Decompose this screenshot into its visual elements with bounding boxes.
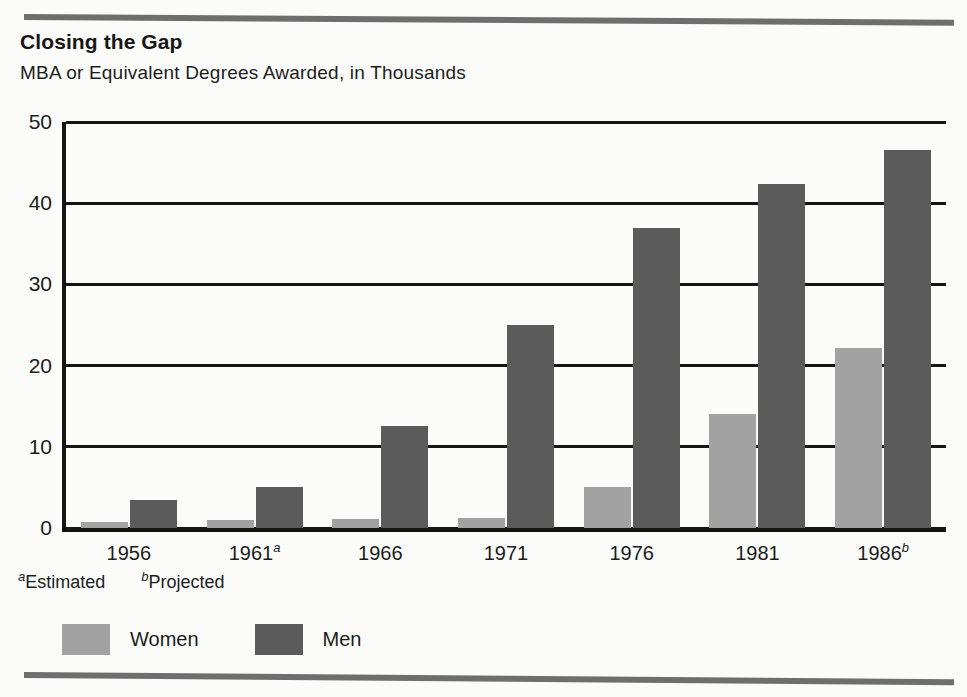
legend-swatch-icon — [62, 624, 110, 655]
legend-item-women[interactable]: Women — [62, 624, 199, 655]
footnote: bProjected — [141, 572, 224, 593]
x-tick-label: 1966 — [358, 528, 403, 565]
x-tick-label: 1956 — [107, 528, 152, 565]
bar-group — [569, 122, 695, 528]
bar-women — [332, 519, 379, 528]
bar-men — [633, 228, 680, 528]
x-tick-footnote-marker: a — [273, 540, 280, 555]
bar-men — [256, 487, 303, 528]
bar-men — [507, 325, 554, 528]
y-tick-label: 40 — [29, 191, 52, 215]
y-tick-label: 30 — [29, 272, 52, 296]
plot-area: 01020304050 19561961a1966197119761981198… — [66, 122, 946, 528]
footnote: aEstimated — [18, 572, 105, 593]
bar-group — [192, 122, 318, 528]
x-tick-label: 1961a — [229, 528, 281, 565]
bar-group — [443, 122, 569, 528]
footnote-marker: b — [141, 569, 148, 584]
bar-group — [695, 122, 821, 528]
bar-men — [758, 184, 805, 528]
bar-group — [820, 122, 946, 528]
x-tick-label: 1971 — [484, 528, 529, 565]
legend-swatch-icon — [255, 624, 303, 655]
legend-item-men[interactable]: Men — [255, 624, 362, 655]
x-tick-label: 1986b — [857, 528, 909, 565]
bar-men — [884, 150, 931, 528]
x-tick-footnote-marker: b — [902, 540, 909, 555]
top-divider-rule — [24, 14, 954, 26]
footnote-text: Estimated — [25, 572, 105, 592]
legend-label: Women — [130, 628, 199, 651]
bar-men — [381, 426, 428, 528]
legend-label: Men — [323, 628, 362, 651]
bar-women — [835, 348, 882, 528]
footnote-text: Projected — [149, 572, 225, 592]
bar-women — [207, 520, 254, 528]
x-tick-label: 1981 — [735, 528, 780, 565]
bar-men — [130, 500, 177, 528]
bar-women — [584, 487, 631, 528]
bar-women — [458, 518, 505, 528]
y-tick-label: 0 — [40, 516, 52, 540]
footnote-row: aEstimatedbProjected — [18, 572, 261, 593]
bottom-divider-rule — [24, 672, 954, 685]
bar-group — [66, 122, 192, 528]
y-tick-label: 10 — [29, 435, 52, 459]
x-tick-label: 1976 — [609, 528, 654, 565]
y-tick-label: 50 — [29, 110, 52, 134]
chart-legend: WomenMen — [62, 624, 417, 655]
chart-title: Closing the Gap — [20, 30, 183, 54]
chart-subtitle: MBA or Equivalent Degrees Awarded, in Th… — [20, 62, 466, 84]
y-tick-label: 20 — [29, 354, 52, 378]
chart-page: Closing the Gap MBA or Equivalent Degree… — [0, 0, 967, 697]
bar-group — [317, 122, 443, 528]
bar-women — [709, 414, 756, 528]
